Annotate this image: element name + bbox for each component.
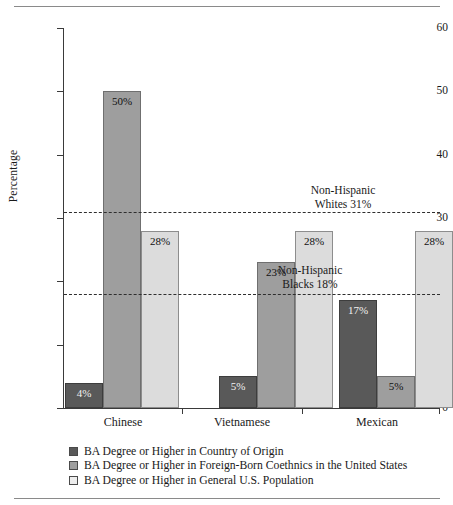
legend-swatch-icon-origin [69,447,78,456]
bar-label: 4% [66,387,102,399]
bar-label: 50% [104,95,140,107]
reference-line-non-hispanic-whites [64,212,440,213]
bottom-divider-rule [14,498,440,499]
x-category-label-chinese: Chinese [63,415,183,429]
top-divider-rule [14,6,440,7]
x-tick-group-1 [182,408,183,414]
legend-label: BA Degree or Higher in General U.S. Popu… [84,474,313,487]
x-category-label-mexican: Mexican [317,415,437,429]
legend-swatch-icon-coethnics [69,461,78,470]
legend-label: BA Degree or Higher in Foreign-Born Coet… [84,459,407,472]
bar-chinese-origin[interactable]: 4% [65,383,103,408]
bar-label: 28% [296,235,332,247]
bar-chinese-general[interactable]: 28% [141,231,179,408]
bar-mexican-origin[interactable]: 17% [339,300,377,408]
reference-line-non-hispanic-blacks [64,294,440,295]
y-axis-title: Percentage [7,121,19,231]
bar-mexican-coethnics[interactable]: 5% [377,376,415,408]
reference-note-whites-line1: Non-Hispanic [268,184,418,198]
bar-label: 5% [378,380,414,392]
bar-vietnamese-general[interactable]: 28% [295,231,333,408]
legend-item-foreign-born-coethnics[interactable]: BA Degree or Higher in Foreign-Born Coet… [69,459,407,474]
legend-swatch-icon-general [69,476,78,485]
reference-note-whites: Non-Hispanic Whites 31% [268,184,418,211]
bar-label: 17% [340,304,376,316]
x-tick-group-2 [302,408,303,414]
reference-note-blacks: Non-Hispanic Blacks 18% [235,264,385,291]
legend-item-general-us-population[interactable]: BA Degree or Higher in General U.S. Popu… [69,473,407,488]
x-tick-group-3 [439,408,440,414]
bar-vietnamese-origin[interactable]: 5% [219,376,257,408]
x-axis-line [63,408,440,409]
bar-label: 28% [416,235,452,247]
x-category-label-vietnamese: Vietnamese [182,415,302,429]
reference-note-blacks-line1: Non-Hispanic [235,264,385,278]
bar-chinese-coethnics[interactable]: 50% [103,91,141,408]
plot-area: 4% 50% 28% 5% 23% 28% 17% 5% 28% [64,28,440,408]
reference-note-whites-line2: Whites 31% [268,198,418,212]
legend-item-country-of-origin[interactable]: BA Degree or Higher in Country of Origin [69,444,407,459]
legend-label: BA Degree or Higher in Country of Origin [84,445,284,458]
bar-label: 28% [142,235,178,247]
legend: BA Degree or Higher in Country of Origin… [69,444,407,488]
reference-note-blacks-line2: Blacks 18% [235,278,385,292]
bar-label: 5% [220,380,256,392]
bar-mexican-general[interactable]: 28% [415,231,453,408]
